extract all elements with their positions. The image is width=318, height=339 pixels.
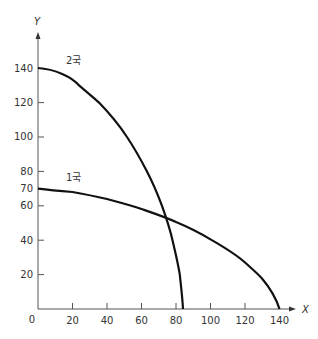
x-tick-label: 140 xyxy=(270,315,289,326)
series-label-country-1: 1국 xyxy=(66,172,81,183)
y-axis-arrow-icon xyxy=(36,32,41,39)
x-tick-label: 80 xyxy=(170,315,183,326)
x-axis-arrow-icon xyxy=(289,307,296,312)
x-tick-label: 60 xyxy=(135,315,148,326)
x-tick-label: 100 xyxy=(201,315,220,326)
x-tick-label: 20 xyxy=(66,315,79,326)
x-tick-label: 120 xyxy=(235,315,254,326)
series-label-country-2: 2국 xyxy=(66,55,81,66)
y-tick-label: 60 xyxy=(20,200,33,211)
x-tick-labels: 0 20 40 60 80 100 120 140 xyxy=(29,314,289,326)
y-tick-label: 80 xyxy=(20,166,33,177)
ppf-curve-country-2 xyxy=(38,68,183,309)
ppf-chart: 0 20 40 60 80 100 120 140 20 40 60 70 80… xyxy=(0,0,318,339)
y-tick-label: 120 xyxy=(14,97,33,108)
ppf-curve-country-1 xyxy=(38,189,280,309)
y-axis-label: Y xyxy=(34,16,41,27)
origin-label: 0 xyxy=(29,314,35,325)
x-tick-label: 40 xyxy=(101,315,114,326)
y-tick-label: 140 xyxy=(14,63,33,74)
x-axis-label: X xyxy=(301,304,310,315)
y-tick-label: 20 xyxy=(20,269,33,280)
y-tick-label: 40 xyxy=(20,235,33,246)
x-ticks xyxy=(73,303,246,309)
y-tick-label: 100 xyxy=(14,131,33,142)
y-tick-label: 70 xyxy=(20,183,33,194)
y-tick-labels: 20 40 60 70 80 100 120 140 xyxy=(14,63,33,281)
